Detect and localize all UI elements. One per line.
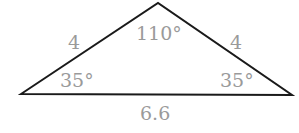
left-angle-label: 35° [60,69,94,91]
left-side-length-label: 4 [68,31,80,53]
base-length-label: 6.6 [140,102,170,124]
right-side-length-label: 4 [230,31,242,53]
triangle-diagram: 4 110° 4 35° 35° 6.6 [0,0,299,133]
apex-angle-label: 110° [136,22,182,44]
right-angle-label: 35° [220,69,254,91]
